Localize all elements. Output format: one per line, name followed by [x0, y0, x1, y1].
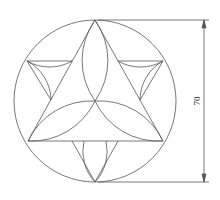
arrowhead-top — [202, 20, 206, 28]
lens-arc — [28, 101, 95, 141]
star-edge — [95, 141, 118, 182]
point-arc — [95, 141, 107, 182]
main-triangle — [28, 20, 163, 141]
lens-arc — [28, 101, 95, 141]
point-arc — [83, 141, 95, 182]
dimension-label: 70 — [192, 96, 202, 106]
geometric-drawing: 70 — [0, 0, 220, 200]
point-arc — [27, 61, 72, 67]
arrowhead-bottom — [202, 174, 206, 182]
star-edge — [72, 141, 95, 182]
